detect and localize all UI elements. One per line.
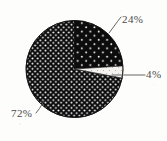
leader-line-24	[109, 17, 121, 33]
pie-label-4: 4%	[146, 69, 161, 80]
chart-area: 24% 4% 72%	[0, 0, 167, 141]
pie-slice-24[interactable]	[75, 21, 123, 70]
pie-label-24: 24%	[122, 14, 143, 25]
pie-chart-figure: 24% 4% 72%	[0, 0, 167, 141]
pie-label-72: 72%	[11, 108, 32, 119]
